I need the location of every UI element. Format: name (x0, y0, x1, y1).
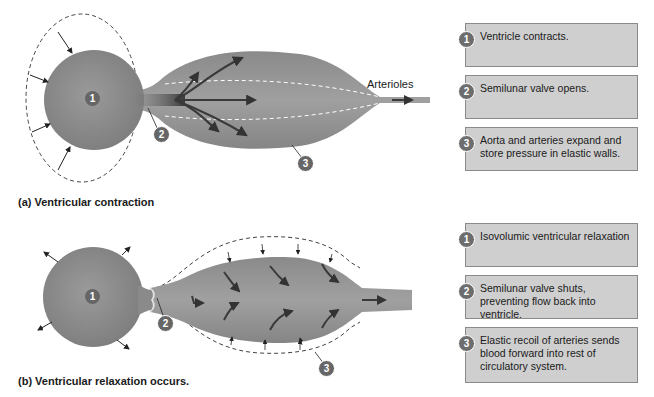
panel-b-step-2: 2 Semilunar valve shuts, preventing flow… (465, 275, 638, 319)
step-number-badge: 1 (458, 231, 475, 248)
panel-b-step-1: 1 Isovolumic ventricular relaxation (465, 223, 638, 267)
step-text: Semilunar valve opens. (480, 82, 631, 95)
panel-a-step-3: 3 Aorta and arteries expand and store pr… (465, 127, 638, 171)
step-text: Ventricle contracts. (480, 30, 631, 43)
step-number-badge: 2 (458, 83, 475, 100)
panel-a-valve-marker: 2 (153, 126, 170, 143)
step-text: Aorta and arteries expand and store pres… (480, 134, 631, 160)
panel-a-ventricle-marker: 1 (85, 91, 100, 106)
panel-b-ventricle-marker: 1 (85, 289, 100, 304)
step-text: Isovolumic ventricular relaxation (480, 230, 631, 243)
panel-b-artery-marker: 3 (318, 360, 335, 377)
panel-a-artery-marker: 3 (297, 155, 314, 172)
panel-b-valve-marker: 2 (157, 315, 174, 332)
panel-a-title: (a) Ventricular contraction (18, 196, 154, 208)
panel-b-title: (b) Ventricular relaxation occurs. (18, 375, 189, 387)
panel-b-step-3: 3 Elastic recoil of arteries sends blood… (465, 327, 638, 383)
arterioles-label: Arterioles (367, 78, 413, 90)
step-number-badge: 2 (458, 283, 475, 300)
panel-a-step-2: 2 Semilunar valve opens. (465, 75, 638, 119)
step-text: Elastic recoil of arteries sends blood f… (480, 334, 631, 373)
step-number-badge: 3 (458, 135, 475, 152)
step-number-badge: 1 (458, 31, 475, 48)
step-number-badge: 3 (458, 335, 475, 352)
step-text: Semilunar valve shuts, preventing flow b… (480, 282, 631, 321)
panel-a-step-1: 1 Ventricle contracts. (465, 23, 638, 67)
